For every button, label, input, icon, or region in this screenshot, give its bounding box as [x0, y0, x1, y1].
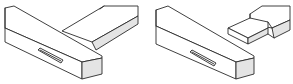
assembled-joint: [5, 6, 138, 79]
joint-diagram: [0, 0, 293, 84]
exploded-joint: [156, 6, 290, 79]
tenon-member-exploded: [228, 6, 290, 44]
mortise-member-exploded: [156, 6, 254, 79]
